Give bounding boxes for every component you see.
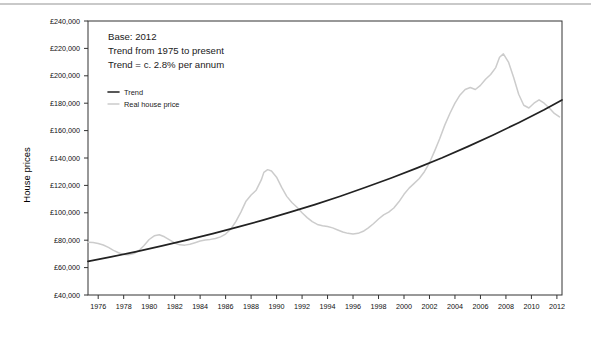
x-tick-label: 2000 xyxy=(396,302,412,311)
x-axis: 1976197819801982198419861988199019921994… xyxy=(90,295,565,311)
y-tick-label: £200,000 xyxy=(50,71,80,80)
x-tick-label: 2006 xyxy=(472,302,488,311)
house-prices-line-chart: £40,000£60,000£80,000£100,000£120,000£14… xyxy=(0,0,591,337)
legend-label-1: Real house price xyxy=(124,100,179,109)
x-tick-label: 1990 xyxy=(269,302,285,311)
x-tick-label: 1998 xyxy=(371,302,387,311)
x-tick-label: 2004 xyxy=(447,302,463,311)
chart-figure: £40,000£60,000£80,000£100,000£120,000£14… xyxy=(0,0,591,337)
x-tick-label: 2002 xyxy=(421,302,437,311)
y-tick-label: £220,000 xyxy=(50,44,80,53)
x-tick-label: 1978 xyxy=(116,302,132,311)
y-tick-label: £160,000 xyxy=(50,126,80,135)
x-tick-label: 1986 xyxy=(218,302,234,311)
x-tick-label: 1988 xyxy=(243,302,259,311)
annotation-line-2: Trend from 1975 to present xyxy=(108,45,224,56)
annotation-line-3: Trend = c. 2.8% per annum xyxy=(108,59,224,70)
x-tick-label: 2008 xyxy=(498,302,514,311)
y-tick-label: £100,000 xyxy=(50,208,80,217)
x-tick-label: 1982 xyxy=(167,302,183,311)
y-tick-label: £40,000 xyxy=(54,291,80,300)
annotation-line-1: Base: 2012 xyxy=(108,31,157,42)
x-tick-label: 2012 xyxy=(549,302,565,311)
y-tick-label: £80,000 xyxy=(54,236,80,245)
y-tick-label: £240,000 xyxy=(50,17,80,26)
y-tick-label: £180,000 xyxy=(50,99,80,108)
x-tick-label: 1992 xyxy=(294,302,310,311)
y-axis: £40,000£60,000£80,000£100,000£120,000£14… xyxy=(50,17,88,300)
y-axis-title: House prices xyxy=(21,147,32,203)
x-tick-label: 1984 xyxy=(192,302,208,311)
y-tick-label: £120,000 xyxy=(50,181,80,190)
x-tick-label: 1980 xyxy=(141,302,157,311)
x-tick-label: 2010 xyxy=(523,302,539,311)
x-tick-label: 1994 xyxy=(320,302,336,311)
x-tick-label: 1996 xyxy=(345,302,361,311)
x-tick-label: 1976 xyxy=(90,302,106,311)
y-tick-label: £60,000 xyxy=(54,263,80,272)
legend-label-0: Trend xyxy=(124,88,143,97)
y-tick-label: £140,000 xyxy=(50,154,80,163)
